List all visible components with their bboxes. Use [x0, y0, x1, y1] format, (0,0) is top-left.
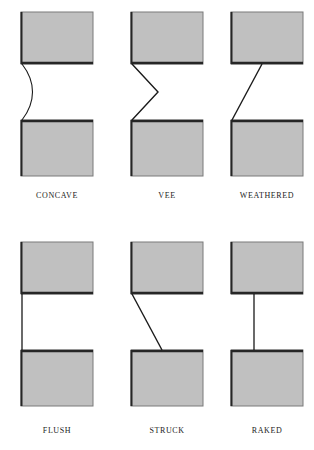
joint-diagram-weathered — [215, 8, 314, 193]
joint-cell-weathered: WEATHERED — [215, 8, 314, 233]
joint-diagram-concave — [5, 8, 109, 193]
joint-label-concave: CONCAVE — [5, 191, 109, 200]
joint-cell-flush: FLUSH — [5, 238, 109, 450]
joint-diagram-raked — [215, 238, 314, 423]
joint-cell-raked: RAKED — [215, 238, 314, 450]
mortar-joint-diagram: CONCAVE VEE WEATHERED FLUSH STRUCK — [0, 0, 314, 450]
joint-cell-vee: VEE — [115, 8, 219, 233]
joint-cell-struck: STRUCK — [115, 238, 219, 450]
joint-label-weathered: WEATHERED — [215, 191, 314, 200]
joint-label-vee: VEE — [115, 191, 219, 200]
joint-cell-concave: CONCAVE — [5, 8, 109, 233]
joint-diagram-flush — [5, 238, 109, 423]
joint-diagram-struck — [115, 238, 219, 423]
joint-label-struck: STRUCK — [115, 426, 219, 435]
joint-label-flush: FLUSH — [5, 426, 109, 435]
joint-diagram-vee — [115, 8, 219, 193]
joint-label-raked: RAKED — [215, 426, 314, 435]
